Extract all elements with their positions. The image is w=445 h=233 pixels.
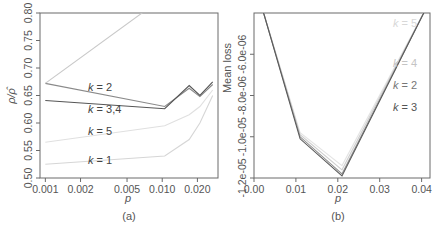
panel-a-y-axis-label: ρ/ρ̂: [5, 86, 17, 105]
series-line-k-5: [45, 90, 212, 142]
y-tick-label: 0.55: [22, 140, 34, 161]
series-label-k-5: k = 5: [393, 17, 417, 29]
x-tick-label: 0.020: [184, 183, 210, 195]
x-tick-label: 0.03: [369, 183, 390, 195]
panel-b-y-axis-label: Mean loss: [221, 42, 233, 93]
series-line-k-3-4: [45, 82, 212, 109]
x-tick-label: 0.010: [149, 183, 175, 195]
series-line-k-3: [262, 9, 425, 176]
panel-a-series-lines: [45, 0, 212, 164]
y-tick-label: -8.0e-06: [236, 76, 248, 115]
y-tick-label: 0.70: [22, 58, 34, 79]
panel-b-chart: -1.2e-05-1.0e-05-8.0e-06-6.0e-06 0.000.0…: [221, 9, 432, 222]
x-tick-label: 0.04: [411, 183, 432, 195]
y-tick-label: 0.60: [22, 113, 34, 134]
series-label-k-3-4: k = 3,4: [88, 103, 121, 115]
series-label-k-5: k = 5: [88, 125, 112, 137]
panel-a-y-axis: 0.500.550.600.650.700.750.80: [22, 3, 40, 189]
series-label-k-3: k = 3: [393, 101, 417, 113]
series-label-k-1: k = 1: [88, 154, 112, 166]
panel-a-x-axis-label: p: [124, 192, 131, 204]
x-tick-label: 0.01: [286, 183, 307, 195]
panel-b-caption: (b): [331, 210, 344, 222]
x-tick-label: 0.002: [67, 183, 93, 195]
series-label-k-4: k = 4: [393, 57, 417, 69]
panel-b-plot-box: [254, 13, 430, 178]
y-tick-label: -1.0e-05: [236, 117, 248, 156]
y-tick-label: 0.80: [22, 3, 34, 24]
panel-b-y-axis: -1.2e-05-1.0e-05-8.0e-06-6.0e-06: [236, 35, 254, 198]
x-tick-label: 0.00: [244, 183, 265, 195]
y-tick-label: 0.65: [22, 85, 34, 106]
y-tick-label: -6.0e-06: [236, 35, 248, 74]
series-label-k-2: k = 2: [88, 81, 112, 93]
figure: 0.500.550.600.650.700.750.80 0.0010.0020…: [0, 0, 445, 233]
y-tick-label: 0.75: [22, 30, 34, 51]
panel-b-x-axis-label: p: [334, 192, 341, 204]
panel-a-series-labels: k = 2k = 3,4k = 5k = 1: [88, 81, 121, 166]
panel-a-x-axis: 0.0010.0020.0050.0100.020: [32, 178, 211, 195]
panel-a-plot-box: [40, 13, 218, 178]
panel-a-caption: (a): [122, 210, 135, 222]
panel-a-chart: 0.500.550.600.650.700.750.80 0.0010.0020…: [5, 0, 218, 222]
x-tick-label: 0.001: [32, 183, 58, 195]
panel-b-series-lines: [262, 9, 425, 176]
series-label-k-2: k = 2: [393, 79, 417, 91]
